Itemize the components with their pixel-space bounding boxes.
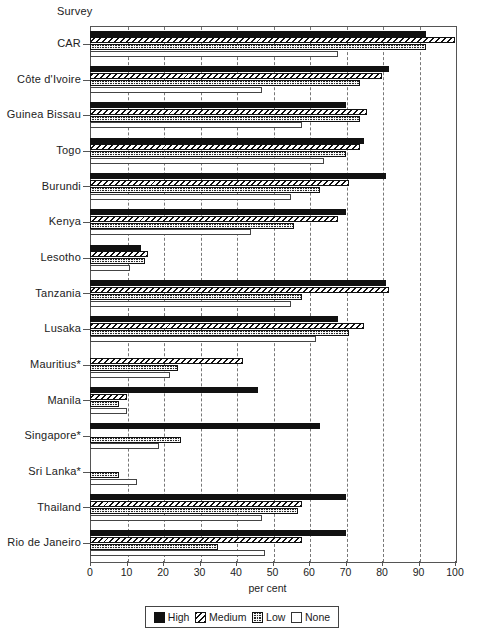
category-label: Rio de Janeiro [7,536,81,548]
bar-group [90,66,455,92]
bar-high [90,316,338,322]
bar-high [90,173,386,179]
legend-label: None [305,611,330,623]
x-tick-label-70: 70 [340,566,352,578]
category-tick [83,151,90,152]
bar-low [90,151,346,157]
x-tick-label-90: 90 [413,566,425,578]
bar-none [90,301,291,307]
bar-medium [90,358,243,364]
category-label: Lesotho [40,251,81,263]
bar-low [90,187,320,193]
bar-low [90,508,298,514]
bar-medium [90,73,382,79]
category-label: Singapore* [25,429,81,441]
category-label: Kenya [49,215,81,227]
bar-high [90,494,346,500]
category-label: Guinea Bissau [7,108,81,120]
diagonal-hatch-swatch [195,612,206,623]
bar-group [90,280,455,306]
bar-group [90,209,455,235]
bar-low [90,294,302,300]
x-tick-label-30: 30 [194,566,206,578]
bar-medium [90,144,360,150]
category-label: Togo [56,144,81,156]
bar-low [90,365,178,371]
bar-medium [90,287,389,293]
category-label: Lusaka [44,322,81,334]
legend-label: High [168,611,190,623]
bar-none [90,372,170,378]
bar-group [90,102,455,128]
bar-high [90,31,426,37]
bar-high [90,280,386,286]
bar-group [90,459,455,485]
x-tick-label-0: 0 [87,566,93,578]
category-tick [83,400,90,401]
category-tick [83,293,90,294]
bar-group [90,530,455,556]
bar-none [90,158,324,164]
survey-bar-chart: Survey CARCôte d'IvoireGuinea BissauTogo… [0,0,479,644]
category-tick [83,80,90,81]
bar-none [90,443,159,449]
x-tick-label-50: 50 [267,566,279,578]
bar-medium [90,501,302,507]
solid-black-swatch [154,612,165,623]
bar-low [90,258,145,264]
x-tick-label-40: 40 [230,566,242,578]
bar-high [90,66,389,72]
category-label: Burundi [42,180,81,192]
x-tick-label-80: 80 [376,566,388,578]
bar-group [90,494,455,520]
x-tick-label-20: 20 [157,566,169,578]
bar-medium [90,394,127,400]
bar-none [90,479,137,485]
bar-high [90,102,346,108]
category-label: Mauritius* [30,358,81,370]
bar-medium [90,216,338,222]
category-label: Sri Lanka* [28,465,81,477]
bar-none [90,122,302,128]
category-tick [83,222,90,223]
bar-none [90,336,316,342]
category-label: CAR [57,37,81,49]
bar-high [90,387,258,393]
category-label: Manila [47,394,81,406]
legend-item-low: Low [252,611,285,623]
empty-white-swatch [291,612,302,623]
bar-low [90,330,349,336]
category-tick [83,543,90,544]
bar-medium [90,251,148,257]
checkered-swatch [252,612,263,623]
bar-none [90,87,262,93]
bar-group [90,387,455,413]
category-tick [83,115,90,116]
legend-item-medium: Medium [195,611,246,623]
bar-none [90,51,338,57]
bar-low [90,44,426,50]
bar-group [90,138,455,164]
bar-high [90,138,364,144]
bar-low [90,437,181,443]
bar-group [90,31,455,57]
bar-medium [90,109,367,115]
bar-none [90,194,291,200]
x-axis-title: per cent [0,582,479,594]
category-label: Tanzania [35,287,81,299]
bar-high [90,423,320,429]
category-tick [83,258,90,259]
category-tick [83,186,90,187]
bar-group [90,245,455,271]
bar-high [90,245,141,251]
bar-low [90,116,360,122]
bar-group [90,316,455,342]
legend-label: Low [266,611,285,623]
bar-low [90,401,119,407]
bar-high [90,530,346,536]
category-tick [83,472,90,473]
x-tick-label-100: 100 [446,566,464,578]
category-tick [83,44,90,45]
bar-none [90,515,262,521]
x-tick-label-60: 60 [303,566,315,578]
